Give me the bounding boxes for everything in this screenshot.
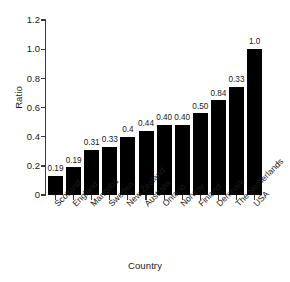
bar-group[interactable]: 0.33 [229, 20, 244, 195]
bar-value-label: 0.44 [138, 120, 154, 128]
y-tick-label: 0.4 [14, 132, 40, 142]
bar-group[interactable]: 1.0 [247, 20, 262, 195]
bar-value-label: 0.4 [122, 126, 133, 134]
y-tick-label: 0.8 [14, 74, 40, 84]
y-tick-label: 0.6 [14, 103, 40, 113]
y-tick-label: 0.2 [14, 161, 40, 171]
bar-group[interactable]: 0.40 [175, 20, 190, 195]
bar-value-label: 0.40 [174, 114, 190, 122]
bar-group[interactable]: 0.44 [139, 20, 154, 195]
bar-group[interactable]: 0.31 [84, 20, 99, 195]
y-tick-label: 0 [14, 190, 40, 200]
x-axis-title: Country [0, 260, 290, 271]
bar-value-label: 0.33 [229, 76, 245, 84]
bar-group[interactable]: 0.50 [193, 20, 208, 195]
bar-value-label: 0.31 [84, 139, 100, 147]
bar-value-label: 0.19 [66, 157, 82, 165]
bar-value-label: 0.19 [48, 165, 64, 173]
bar-value-label: 0.84 [210, 90, 226, 98]
bar-value-label: 0.40 [156, 114, 172, 122]
bar-group[interactable]: 0.19 [48, 20, 63, 195]
bar-group[interactable]: 0.33 [102, 20, 117, 195]
y-tick-label: 1.0 [14, 44, 40, 54]
bar-group[interactable]: 0.84 [211, 20, 226, 195]
bar-group[interactable]: 0.4 [120, 20, 135, 195]
bar-value-label: 1.0 [249, 38, 260, 46]
y-tick-label: 1.2 [14, 15, 40, 25]
bar[interactable] [211, 100, 226, 195]
bar-group[interactable]: 0.19 [66, 20, 81, 195]
bar-value-label: 0.33 [102, 136, 118, 144]
bar-chart-figure: Ratio 00.20.40.60.81.01.2 0.190.190.310.… [0, 0, 290, 282]
plot-area: 0.190.190.310.330.40.440.400.400.500.840… [45, 20, 290, 195]
bar-value-label: 0.50 [192, 103, 208, 111]
y-axis-tick-labels: 00.20.40.60.81.01.2 [12, 0, 40, 282]
